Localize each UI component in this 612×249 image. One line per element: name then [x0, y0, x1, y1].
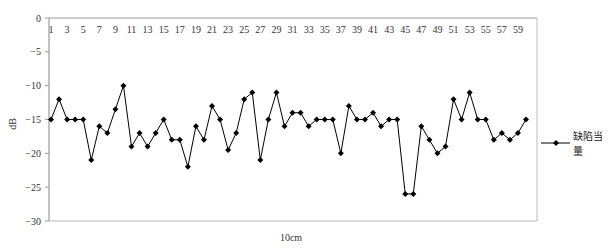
data-point-marker	[298, 110, 304, 116]
data-point-marker	[281, 123, 287, 129]
x-tick-label: 9	[113, 24, 118, 35]
data-point-marker	[354, 117, 360, 123]
data-point-marker	[394, 117, 400, 123]
y-tick-label: −25	[25, 182, 41, 193]
x-tick-label: 45	[400, 24, 410, 35]
y-axis: 0−5−10−15−20−25−30	[25, 13, 49, 227]
x-tick-label: 57	[497, 24, 507, 35]
data-point-marker	[330, 117, 336, 123]
x-tick-label: 55	[481, 24, 491, 35]
data-point-marker	[80, 117, 86, 123]
data-point-marker	[410, 191, 416, 197]
data-point-marker	[88, 157, 94, 163]
x-tick-label: 49	[432, 24, 442, 35]
data-point-marker	[177, 137, 183, 143]
data-point-marker	[153, 130, 159, 136]
data-point-marker	[418, 123, 424, 129]
data-point-marker	[402, 191, 408, 197]
x-tick-label: 17	[175, 24, 185, 35]
data-point-marker	[257, 157, 263, 163]
line-chart: 0−5−10−15−20−25−30 135791113151719212325…	[0, 0, 612, 249]
y-tick-label: −15	[25, 114, 41, 125]
x-tick-label: 59	[513, 24, 523, 35]
data-point-marker	[56, 96, 62, 102]
x-tick-label: 13	[143, 24, 153, 35]
data-point-marker	[459, 117, 465, 123]
data-point-marker	[451, 96, 457, 102]
x-tick-label: 27	[255, 24, 265, 35]
x-tick-label: 31	[288, 24, 298, 35]
data-point-marker	[129, 144, 135, 150]
x-tick-label: 25	[239, 24, 249, 35]
data-point-marker	[120, 83, 126, 89]
x-tick-label: 5	[81, 24, 86, 35]
data-point-marker	[523, 117, 529, 123]
data-point-marker	[193, 123, 199, 129]
x-tick-label: 53	[465, 24, 475, 35]
legend-line-diamond-icon	[541, 138, 570, 148]
data-point-marker	[338, 150, 344, 156]
x-tick-label: 3	[65, 24, 70, 35]
legend-label: 缺陷当量	[573, 128, 612, 158]
y-tick-label: −10	[25, 80, 41, 91]
y-tick-label: 0	[36, 13, 41, 24]
x-tick-label: 33	[304, 24, 314, 35]
data-point-marker	[145, 144, 151, 150]
data-point-marker	[161, 117, 167, 123]
data-point-marker	[137, 130, 143, 136]
x-tick-label: 41	[368, 24, 378, 35]
data-point-marker	[322, 117, 328, 123]
x-tick-label: 19	[191, 24, 201, 35]
data-point-marker	[112, 106, 118, 112]
x-tick-labels: 1357911131517192123252729313335373941434…	[49, 24, 523, 35]
x-tick-label: 7	[97, 24, 102, 35]
x-tick-label: 15	[159, 24, 169, 35]
data-point-marker	[483, 117, 489, 123]
x-axis-label: 10cm	[280, 232, 302, 243]
data-point-marker	[290, 110, 296, 116]
x-tick-label: 35	[320, 24, 330, 35]
data-point-marker	[217, 117, 223, 123]
x-tick-label: 39	[352, 24, 362, 35]
y-axis-label: dB	[7, 118, 18, 130]
x-tick-label: 11	[127, 24, 137, 35]
y-tick-label: −20	[25, 148, 41, 159]
x-tick-label: 29	[271, 24, 281, 35]
data-point-marker	[225, 147, 231, 153]
data-point-marker	[169, 137, 175, 143]
legend: 缺陷当量	[541, 128, 612, 158]
x-tick-label: 37	[336, 24, 346, 35]
x-tick-label: 47	[416, 24, 426, 35]
data-point-marker	[265, 117, 271, 123]
data-point-marker	[426, 137, 432, 143]
y-tick-label: −30	[25, 216, 41, 227]
data-point-marker	[185, 164, 191, 170]
data-point-marker	[72, 117, 78, 123]
x-tick-label: 51	[449, 24, 459, 35]
data-point-marker	[475, 117, 481, 123]
data-point-marker	[201, 137, 207, 143]
data-point-marker	[209, 103, 215, 109]
data-point-marker	[64, 117, 70, 123]
data-point-marker	[467, 89, 473, 95]
x-tick-label: 21	[207, 24, 217, 35]
data-point-marker	[233, 130, 239, 136]
x-tick-label: 23	[223, 24, 233, 35]
data-point-marker	[346, 103, 352, 109]
series-defect-equivalent	[48, 83, 529, 197]
x-tick-label: 43	[384, 24, 394, 35]
y-tick-label: −5	[30, 46, 41, 57]
data-point-marker	[273, 89, 279, 95]
